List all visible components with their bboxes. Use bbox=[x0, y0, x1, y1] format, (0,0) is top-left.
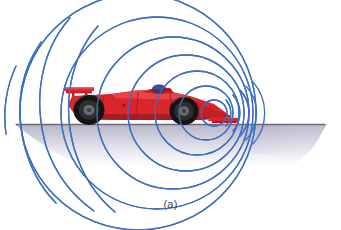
ground-shadow bbox=[14, 124, 327, 172]
rear-tire bbox=[74, 95, 105, 125]
cockpit bbox=[142, 85, 174, 95]
figure-caption: (a) bbox=[0, 198, 341, 210]
figure-container: (a) bbox=[0, 0, 341, 230]
race-car bbox=[64, 85, 238, 126]
front-tire bbox=[170, 97, 199, 125]
doppler-illustration bbox=[0, 0, 341, 230]
